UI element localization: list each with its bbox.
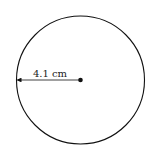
radius-label: 4.1 cm <box>33 68 68 79</box>
center-point <box>78 78 83 83</box>
circle-diagram: 4.1 cm <box>0 0 155 158</box>
